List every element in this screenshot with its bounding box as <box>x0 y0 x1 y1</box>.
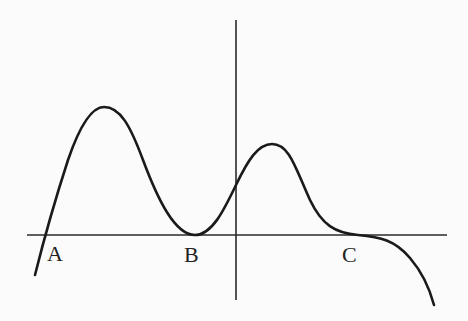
function-graph: A B C <box>0 0 468 321</box>
curve <box>35 107 434 305</box>
label-b: B <box>184 242 199 267</box>
label-c: C <box>342 242 357 267</box>
label-a: A <box>47 241 63 266</box>
